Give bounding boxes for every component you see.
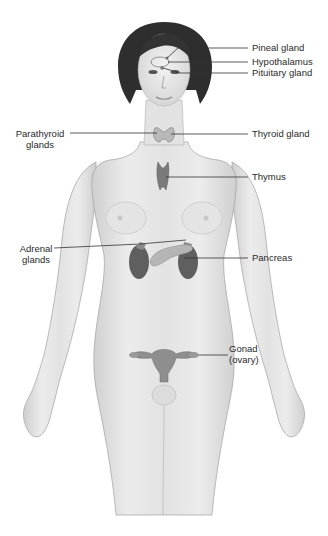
label-pituitary-gland: Pituitary gland [252,67,312,78]
label-thymus: Thymus [252,171,286,182]
label-adrenal-line2: glands [18,254,54,265]
label-pineal-gland: Pineal gland [252,42,304,53]
label-parathyroid-line2: glands [14,139,66,150]
left-arm [23,162,96,437]
label-pancreas: Pancreas [252,252,292,263]
right-arm [232,162,305,437]
endocrine-figure [0,0,328,536]
left-kidney [129,245,149,279]
label-gonad-ovary: Gonad (ovary) [229,343,259,365]
label-gonad-line1: Gonad [229,343,259,354]
torso [92,142,237,515]
label-parathyroid-line1: Parathyroid [14,128,66,139]
label-adrenal-glands: Adrenal glands [18,243,54,265]
label-parathyroid-glands: Parathyroid glands [14,128,66,150]
label-hypothalamus: Hypothalamus [252,56,313,67]
label-thyroid-gland: Thyroid gland [252,128,310,139]
label-gonad-line2: (ovary) [229,354,259,365]
label-adrenal-line1: Adrenal [18,243,54,254]
